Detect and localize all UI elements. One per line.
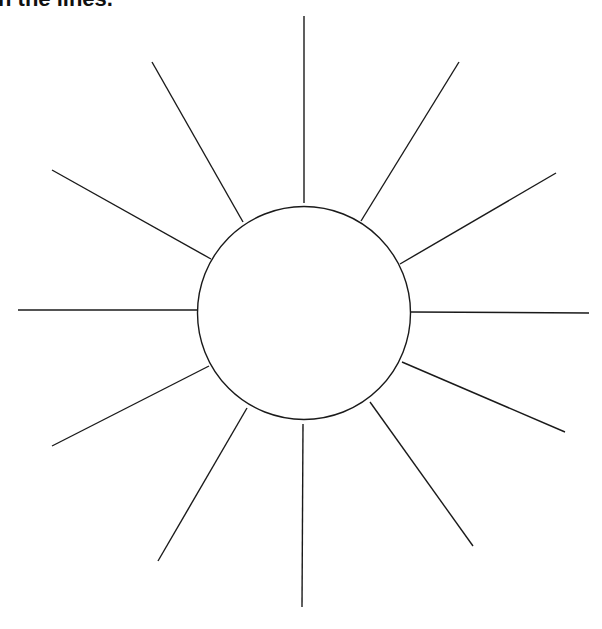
ray-line-right-lower — [402, 362, 565, 432]
sun-ray-diagram — [0, 0, 602, 629]
ray-line-lower-right — [370, 402, 473, 546]
center-circle — [198, 207, 411, 420]
ray-line-right-upper — [400, 173, 556, 264]
ray-line-upper-left — [152, 62, 243, 222]
ray-line-right — [411, 312, 589, 313]
ray-line-bottom — [302, 424, 303, 607]
ray-line-lower-left — [158, 408, 247, 561]
ray-line-left-upper — [52, 170, 211, 259]
ray-line-upper-right — [361, 62, 459, 221]
ray-line-left-lower — [52, 366, 209, 446]
